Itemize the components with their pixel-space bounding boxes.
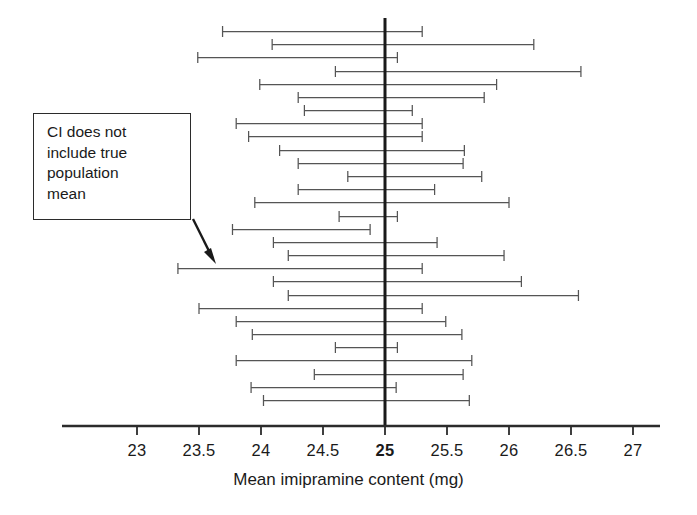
- x-axis-ticks: [137, 426, 633, 435]
- confidence-interval-row: [280, 145, 465, 156]
- confidence-interval-row: [252, 329, 462, 340]
- annotation-arrow: [193, 219, 216, 264]
- confidence-interval-row: [314, 369, 463, 380]
- confidence-interval-row: [255, 197, 509, 208]
- confidence-interval-row: [298, 184, 434, 195]
- confidence-interval-row: [236, 355, 472, 366]
- annotation-callout-text: CI does not include true population mean: [47, 122, 190, 204]
- confidence-interval-row: [339, 211, 397, 222]
- x-axis-tick-label: 26.5: [536, 441, 606, 460]
- confidence-interval-row: [273, 237, 437, 248]
- confidence-interval-row: [263, 395, 469, 406]
- confidence-interval-row: [199, 303, 422, 314]
- confidence-interval-row: [272, 39, 534, 50]
- x-axis-tick-label: 25.5: [412, 441, 482, 460]
- confidence-interval-row: [335, 342, 397, 353]
- x-axis-tick-label: 25: [350, 441, 420, 460]
- confidence-interval-row: [288, 250, 504, 261]
- interval-series: [178, 26, 581, 406]
- confidence-interval-row: [273, 276, 521, 287]
- chart-canvas: [0, 0, 697, 515]
- x-axis-tick-label: 24: [226, 441, 296, 460]
- x-axis-tick-label: 26: [474, 441, 544, 460]
- confidence-interval-row: [304, 105, 412, 116]
- confidence-interval-row: [335, 66, 581, 77]
- confidence-interval-row: [348, 171, 482, 182]
- confidence-interval-row: [260, 79, 497, 90]
- x-axis-tick-label: 27: [598, 441, 668, 460]
- confidence-interval-row: [298, 158, 463, 169]
- confidence-interval-row: [198, 52, 398, 63]
- confidence-interval-row: [236, 118, 422, 129]
- confidence-interval-row: [298, 92, 484, 103]
- x-axis-title: Mean imipramine content (mg): [0, 470, 697, 490]
- confidence-interval-row: [232, 224, 370, 235]
- confidence-interval-row: [236, 316, 446, 327]
- x-axis-tick-label: 23: [102, 441, 172, 460]
- confidence-interval-row: [223, 26, 423, 37]
- confidence-interval-row: [251, 382, 396, 393]
- confidence-interval-chart: CI does not include true population mean…: [0, 0, 697, 515]
- x-axis-tick-label: 24.5: [288, 441, 358, 460]
- confidence-interval-row: [288, 290, 578, 301]
- annotation-callout: CI does not include true population mean: [33, 113, 191, 220]
- confidence-interval-row: [249, 131, 423, 142]
- x-axis-tick-label: 23.5: [164, 441, 234, 460]
